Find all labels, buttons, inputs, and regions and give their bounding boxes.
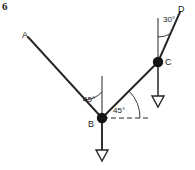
angle-arc-b-right: [129, 91, 140, 118]
member-segment-bc: [102, 62, 158, 118]
figure-canvas: 6 A B C D 45°: [0, 0, 195, 170]
point-label-c: C: [165, 58, 172, 67]
angle-label-b-left: 45°: [83, 96, 95, 104]
point-label-b: B: [88, 120, 94, 129]
angle-label-b-right: 45°: [113, 107, 125, 115]
load-arrow-head-at-b: [96, 150, 108, 161]
diagram-svg: [0, 0, 195, 170]
member-segment-ab: [28, 37, 102, 118]
point-label-a: A: [22, 31, 28, 40]
joint-node-c: [153, 57, 163, 67]
angle-label-c: 30°: [163, 16, 175, 24]
joint-node-b: [97, 113, 107, 123]
point-label-d: D: [178, 5, 185, 14]
load-arrow-head-at-c: [152, 96, 164, 107]
